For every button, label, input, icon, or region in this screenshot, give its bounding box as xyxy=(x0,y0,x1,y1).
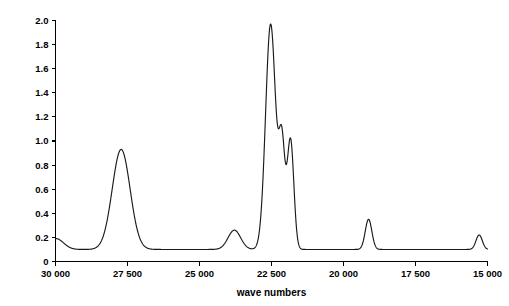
y-tick-label: 0.4 xyxy=(35,208,49,219)
spectrum-chart-svg: 30 00027 50025 00022 50020 00017 50015 0… xyxy=(0,0,509,306)
y-tick-label: 0.6 xyxy=(35,184,48,195)
x-tick-label: 25 000 xyxy=(185,268,214,279)
y-tick-label: 1.0 xyxy=(35,135,48,146)
y-tick-label: 0.2 xyxy=(35,232,48,243)
x-tick-label: 17 500 xyxy=(401,268,430,279)
y-tick-label: 1.6 xyxy=(35,63,48,74)
y-tick-label: 1.4 xyxy=(35,87,49,98)
x-axis-tick-labels: 30 00027 50025 00022 50020 00017 50015 0… xyxy=(41,268,502,279)
spectrum-curve xyxy=(56,24,488,249)
y-tick-label: 2.0 xyxy=(35,15,48,26)
x-tick-label: 30 000 xyxy=(41,268,70,279)
x-tick-label: 27 500 xyxy=(113,268,142,279)
x-axis-title: wave numbers xyxy=(236,287,307,298)
x-tick-label: 20 000 xyxy=(329,268,358,279)
absorbance-trace xyxy=(56,24,488,249)
y-axis-tick-labels: 00.20.40.60.81.01.21.41.61.82.0 xyxy=(35,15,49,267)
y-tick-label: 0.8 xyxy=(35,160,48,171)
x-tick-label: 15 000 xyxy=(473,268,502,279)
x-tick-label: 22 500 xyxy=(257,268,286,279)
spectrum-figure: 30 00027 50025 00022 50020 00017 50015 0… xyxy=(0,0,509,306)
y-tick-label: 0 xyxy=(43,256,48,267)
y-tick-label: 1.8 xyxy=(35,39,48,50)
y-tick-label: 1.2 xyxy=(35,111,48,122)
chart-axes xyxy=(52,21,488,266)
